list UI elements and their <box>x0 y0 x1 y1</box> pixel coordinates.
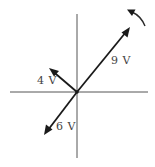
label-9v: 9 V <box>111 55 131 67</box>
origin-point <box>75 90 79 94</box>
label-6v: 6 V <box>56 121 76 133</box>
label-4v: 4 V <box>37 75 57 87</box>
phasor-diagram <box>0 0 155 167</box>
rotation-arrow-icon <box>127 10 145 27</box>
